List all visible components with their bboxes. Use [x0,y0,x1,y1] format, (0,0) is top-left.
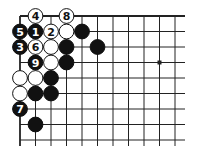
star-points [158,61,162,65]
stone-circle [44,55,59,70]
white-stone [44,40,59,55]
stone-circle [44,71,59,86]
stone-circle [28,117,43,132]
stone-circle [59,55,74,70]
stones-layer: 485123697 [13,9,105,132]
go-board-diagram: 485123697 [0,0,197,155]
white-stone: 4 [28,9,43,24]
white-stone: 8 [59,9,74,24]
white-stone: 2 [44,24,59,39]
stone-circle [28,86,43,101]
move-number-label: 1 [32,26,40,39]
white-stone [28,71,43,86]
black-stone [90,40,105,55]
move-number-label: 5 [16,26,24,39]
black-stone [44,86,59,101]
black-stone: 3 [13,40,28,55]
move-number-label: 8 [63,10,71,23]
move-number-label: 9 [32,57,40,70]
black-stone [59,55,74,70]
move-number-label: 2 [47,26,55,39]
star-point-marker [158,61,162,65]
move-number-label: 6 [32,41,40,54]
move-number-label: 3 [16,41,24,54]
black-stone [59,40,74,55]
stone-circle [90,40,105,55]
move-number-label: 7 [16,103,24,116]
stone-circle [13,86,28,101]
white-stone [59,24,74,39]
black-stone [75,24,90,39]
stone-circle [75,24,90,39]
move-number-label: 4 [32,10,40,23]
black-stone [28,86,43,101]
white-stone [13,71,28,86]
stone-circle [13,71,28,86]
black-stone: 7 [13,102,28,117]
stone-circle [44,40,59,55]
black-stone: 1 [28,24,43,39]
white-stone [13,86,28,101]
stone-circle [28,71,43,86]
stone-circle [59,24,74,39]
black-stone: 9 [28,55,43,70]
white-stone: 6 [28,40,43,55]
white-stone [44,55,59,70]
stone-circle [44,86,59,101]
black-stone [28,117,43,132]
black-stone [44,71,59,86]
black-stone: 5 [13,24,28,39]
stone-circle [59,40,74,55]
